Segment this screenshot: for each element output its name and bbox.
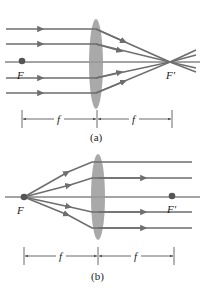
dimension-line xyxy=(24,247,174,265)
dimension-line xyxy=(22,110,172,128)
lens xyxy=(89,19,103,109)
ray xyxy=(24,197,68,215)
diagram-b: F F′ f f (b) xyxy=(5,154,200,283)
ray xyxy=(68,162,192,172)
focal-point-near xyxy=(19,58,26,65)
caption: (a) xyxy=(90,131,103,144)
ray xyxy=(68,215,192,228)
focal-point-far xyxy=(169,193,176,200)
dimension-label: f xyxy=(132,113,137,125)
focal-label-far: F′ xyxy=(165,69,176,81)
ray xyxy=(42,44,196,62)
ray xyxy=(24,197,70,207)
focal-label-near: F xyxy=(16,204,24,216)
lens-diagrams: F F′ f f (a) xyxy=(0,0,202,288)
diagram-a: F F′ f f (a) xyxy=(5,19,200,144)
caption: (b) xyxy=(91,270,104,283)
lens xyxy=(91,154,105,240)
ray xyxy=(42,29,196,62)
focal-label-far: F′ xyxy=(166,203,177,215)
ray xyxy=(24,185,70,197)
focal-label-near: F xyxy=(16,69,24,81)
focal-point-near xyxy=(21,194,28,201)
dimension-label: f xyxy=(59,250,64,262)
ray xyxy=(70,178,192,185)
rays xyxy=(24,162,192,228)
dimension-label: f xyxy=(134,250,139,262)
dimension-label: f xyxy=(57,113,62,125)
ray xyxy=(24,172,68,197)
